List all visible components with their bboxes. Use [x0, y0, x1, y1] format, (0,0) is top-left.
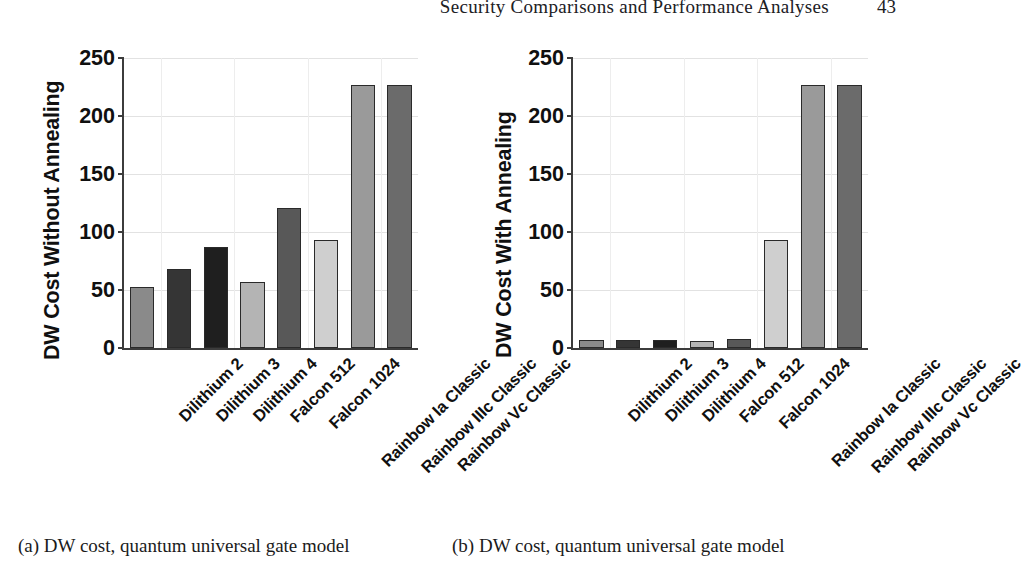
y-tick-label: 200 [79, 104, 115, 129]
plot-area-b: 050100150200250 Dilithium 2Dilithium 3Di… [571, 58, 868, 350]
y-tick-label: 250 [528, 46, 564, 71]
bar [314, 240, 338, 348]
running-head-title: Security Comparisons and Performance Ana… [440, 0, 829, 18]
y-tick-label: 250 [79, 46, 115, 71]
y-tick-label: 100 [79, 220, 115, 245]
bar [616, 340, 640, 348]
y-axis-label-a: DW Cost Without Annealing [40, 81, 65, 360]
y-tick-label: 50 [91, 278, 115, 303]
bar [690, 341, 714, 348]
bar [801, 85, 825, 348]
y-tick-label: 0 [552, 336, 564, 361]
y-tick-label: 200 [528, 104, 564, 129]
bar [167, 269, 191, 348]
page-number: 43 [877, 0, 896, 18]
caption-b: (b) DW cost, quantum universal gate mode… [452, 535, 785, 557]
y-tick-label: 0 [103, 336, 115, 361]
bar [727, 339, 751, 348]
bar [764, 240, 788, 348]
bar [653, 340, 677, 348]
caption-a: (a) DW cost, quantum universal gate mode… [18, 535, 350, 557]
bar [277, 208, 301, 348]
y-axis-label-b: DW Cost With Annealing [492, 111, 517, 358]
bar [579, 340, 603, 348]
bar [351, 85, 375, 348]
chart-panel-a: DW Cost Without Annealing 05010015020025… [0, 30, 450, 530]
y-tick-label: 100 [528, 220, 564, 245]
y-tick-label: 150 [79, 162, 115, 187]
y-tick-label: 50 [540, 278, 564, 303]
bar [204, 247, 228, 348]
bar [240, 282, 264, 348]
figure: DW Cost Without Annealing 05010015020025… [0, 30, 900, 570]
bars-a [124, 58, 418, 348]
bar [837, 85, 861, 348]
chart-panel-b: DW Cost With Annealing 050100150200250 D… [450, 30, 900, 530]
y-tick-label: 150 [528, 162, 564, 187]
plot-area-a: 050100150200250 Dilithium 2Dilithium 3Di… [122, 58, 418, 350]
running-head: Security Comparisons and Performance Ana… [0, 0, 900, 26]
bar [387, 85, 411, 348]
figure-captions: (a) DW cost, quantum universal gate mode… [0, 535, 900, 570]
bars-b [573, 58, 868, 348]
bar [130, 287, 154, 348]
